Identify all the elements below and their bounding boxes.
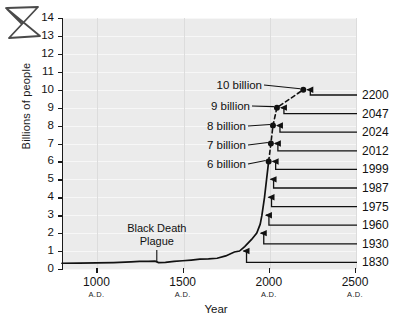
- billion-marker-label: 7 billion: [0, 140, 246, 152]
- year-callout-label: 1975: [362, 201, 389, 213]
- gridline-horizontal: [63, 215, 356, 216]
- y-tick-label: 14: [32, 12, 54, 24]
- year-callout-label: 1930: [362, 238, 389, 250]
- y-tick-label: 13: [32, 30, 54, 42]
- year-callout-label: 1987: [362, 182, 389, 194]
- billion-marker-label: 9 billion: [0, 101, 250, 113]
- y-tick-label: 12: [32, 48, 54, 60]
- x-tick-label: 1000A.D.: [66, 276, 126, 298]
- gridline-horizontal: [63, 72, 356, 73]
- y-tick-mark: [58, 72, 63, 73]
- x-tick-year: 1000: [83, 275, 110, 289]
- x-tick-label: 1500A.D.: [153, 276, 213, 298]
- gridline-vertical: [356, 18, 357, 269]
- y-tick-mark: [58, 215, 63, 216]
- x-tick-mark: [355, 268, 356, 273]
- y-tick-mark: [58, 179, 63, 180]
- billion-marker-label: 6 billion: [0, 159, 246, 171]
- billion-marker-label: 8 billion: [0, 121, 246, 133]
- gridline-horizontal: [63, 54, 356, 55]
- black-death-line1: Black Death: [109, 222, 205, 235]
- gridline-horizontal: [63, 36, 356, 37]
- y-tick-mark: [58, 18, 63, 19]
- gridline-horizontal: [63, 233, 356, 234]
- y-tick-mark: [58, 251, 63, 252]
- y-tick-label: 1: [32, 245, 54, 257]
- y-tick-label: 5: [32, 173, 54, 185]
- y-tick-mark: [58, 197, 63, 198]
- gridline-horizontal: [63, 18, 356, 19]
- x-tick-era: A.D.: [66, 291, 126, 299]
- gridline-vertical: [270, 18, 271, 269]
- year-callout-label: 2024: [362, 126, 389, 138]
- x-tick-year: 2000: [255, 275, 282, 289]
- x-tick-mark: [183, 268, 184, 273]
- y-tick-mark: [58, 233, 63, 234]
- year-callout-label: 1830: [362, 256, 389, 268]
- y-tick-mark: [58, 269, 63, 270]
- gridline-horizontal: [63, 197, 356, 198]
- x-tick-mark: [269, 268, 270, 273]
- x-tick-era: A.D.: [325, 291, 385, 299]
- billion-marker-label: 10 billion: [0, 80, 262, 92]
- x-tick-label: 2500A.D.: [325, 276, 385, 298]
- y-tick-label: 4: [32, 191, 54, 203]
- x-tick-era: A.D.: [153, 291, 213, 299]
- population-growth-chart: Billions of people 01234567891011121314 …: [0, 0, 408, 321]
- y-tick-label: 2: [32, 227, 54, 239]
- year-callout-label: 1960: [362, 219, 389, 231]
- y-tick-mark: [58, 54, 63, 55]
- x-tick-year: 2500: [342, 275, 369, 289]
- gridline-horizontal: [63, 251, 356, 252]
- y-tick-label: 3: [32, 209, 54, 221]
- x-tick-mark: [96, 268, 97, 273]
- x-tick-label: 2000A.D.: [239, 276, 299, 298]
- year-callout-label: 2047: [362, 108, 389, 120]
- gridline-horizontal: [63, 269, 356, 270]
- year-callout-label: 1999: [362, 163, 389, 175]
- x-tick-era: A.D.: [239, 291, 299, 299]
- x-tick-year: 1500: [169, 275, 196, 289]
- x-axis-title: Year: [0, 303, 408, 315]
- y-tick-label: 0: [32, 263, 54, 275]
- year-callout-label: 2012: [362, 145, 389, 157]
- gridline-horizontal: [63, 179, 356, 180]
- year-callout-label: 2200: [362, 89, 389, 101]
- y-tick-label: 11: [32, 66, 54, 78]
- black-death-annotation: Black Death Plague: [109, 222, 205, 248]
- black-death-line2: Plague: [109, 235, 205, 248]
- y-tick-mark: [58, 36, 63, 37]
